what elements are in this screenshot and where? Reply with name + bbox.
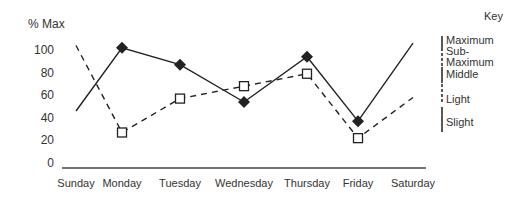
series-line-dashed	[76, 45, 413, 138]
line-chart: % Max 020406080100 SundayMondayTuesdayWe…	[0, 0, 509, 201]
y-tick-label: 0	[47, 156, 54, 170]
y-axis-label: % Max	[28, 17, 65, 31]
x-tick-label: Tuesday	[159, 177, 201, 189]
x-tick-label: Saturday	[391, 177, 436, 189]
y-tick-label: 40	[41, 111, 55, 125]
data-point-diamond	[174, 59, 186, 71]
data-point-square	[303, 69, 312, 78]
data-point-diamond	[116, 42, 128, 54]
x-tick-label: Friday	[343, 177, 374, 189]
legend-label: Maximum	[446, 56, 494, 68]
data-point-diamond	[238, 96, 250, 108]
legend-label: Middle	[446, 68, 478, 80]
x-tick-label: Wednesday	[215, 177, 273, 189]
x-tick-label: Sunday	[57, 177, 95, 189]
legend-label: Slight	[446, 116, 474, 128]
y-tick-label: 20	[41, 133, 55, 147]
x-tick-label: Thursday	[284, 177, 330, 189]
data-point-square	[118, 128, 127, 137]
legend-title: Key	[484, 10, 503, 22]
data-point-square	[240, 82, 249, 91]
y-tick-label: 80	[41, 66, 55, 80]
y-tick-label: 100	[34, 43, 54, 57]
legend-label: Light	[446, 93, 470, 105]
x-tick-label: Monday	[102, 177, 142, 189]
data-point-square	[176, 94, 185, 103]
data-point-square	[354, 134, 363, 143]
y-tick-label: 60	[41, 88, 55, 102]
